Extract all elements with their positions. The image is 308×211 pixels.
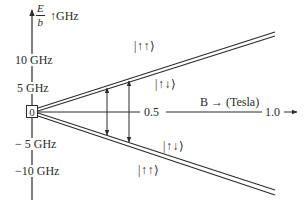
y-axis-label-denominator: b — [38, 16, 44, 28]
ket-upper-up-down: |↑↓⟩ — [155, 78, 176, 90]
x-tick-0-5: 0.5 — [144, 106, 159, 118]
y-tick-minus-10ghz: −10 GHz — [13, 165, 61, 177]
y-axis-label-fraction: E b — [36, 3, 45, 28]
x-axis-label: B → (Tesla) — [200, 96, 259, 108]
y-axis-label-numerator: E — [36, 3, 45, 16]
ket-lower-up-down: |↑↓⟩ — [163, 140, 184, 152]
ket-lower-up-up: |↑↑⟩ — [138, 164, 159, 176]
origin-box: 0 — [26, 105, 38, 118]
lower-level-line-outer — [38, 116, 275, 195]
lower-level-line-inner — [38, 113, 275, 190]
y-tick-10ghz: 10 GHz — [13, 54, 55, 66]
ket-upper-up-up: |↑↑⟩ — [134, 40, 155, 52]
y-axis-unit-label: ↑GHz — [50, 10, 79, 22]
y-tick-minus-5ghz: − 5 GHz — [13, 138, 58, 150]
y-tick-5ghz: 5 GHz — [15, 82, 51, 94]
x-tick-1-0: 1.0 — [265, 106, 280, 118]
energy-level-diagram: E b ↑GHz 10 GHz 5 GHz 0 − 5 GHz −10 GHz … — [0, 0, 308, 211]
